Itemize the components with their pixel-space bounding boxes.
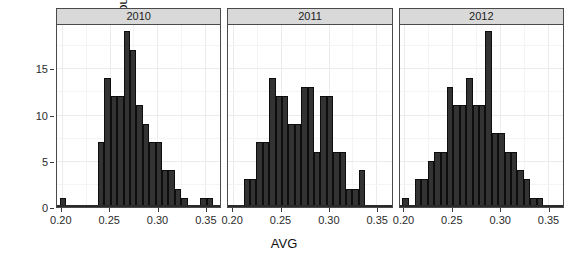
x-tick-mark — [549, 208, 550, 212]
bar-series — [57, 25, 220, 207]
x-tick-label: 0.20 — [50, 214, 71, 226]
facet-panel-2011: 2011 — [227, 8, 392, 208]
x-tick-label: 0.20 — [393, 214, 414, 226]
facet-panel-2012: 2012 — [399, 8, 564, 208]
y-tick-label: 5 — [42, 156, 48, 168]
x-tick-label: 0.30 — [147, 214, 168, 226]
x-tick-label: 0.20 — [221, 214, 242, 226]
x-tick-mark — [452, 208, 453, 212]
y-tick-mark — [50, 116, 54, 117]
panel-strip-2012: 2012 — [399, 8, 564, 25]
panel-strip-label: 2010 — [126, 11, 150, 22]
panel-strip-2011: 2011 — [227, 8, 392, 25]
axis-baseline — [57, 205, 220, 207]
x-tick-label: 0.25 — [98, 214, 119, 226]
y-tick-mark — [50, 162, 54, 163]
x-tick-mark — [109, 208, 110, 212]
x-tick-label: 0.35 — [195, 214, 216, 226]
y-tick-mark — [50, 69, 54, 70]
bar-series — [400, 25, 563, 207]
x-axis-title: AVG — [0, 236, 568, 251]
axis-baseline — [400, 205, 563, 207]
x-tick-mark — [403, 208, 404, 212]
x-tick-mark — [158, 208, 159, 212]
chart-root: count 051015 201020112012 0.200.250.300.… — [0, 0, 568, 257]
x-tick-mark — [281, 208, 282, 212]
x-tick-label: 0.25 — [270, 214, 291, 226]
y-tick-mark — [50, 208, 54, 209]
x-tick-label: 0.35 — [538, 214, 559, 226]
x-axis-panel-2011: 0.200.250.300.35 — [227, 208, 392, 232]
facet-panels: 201020112012 — [56, 8, 564, 208]
y-axis-title-wrapper: count — [0, 0, 16, 18]
plot-area-2010 — [56, 25, 221, 208]
x-tick-label: 0.35 — [366, 214, 387, 226]
y-tick-label: 10 — [36, 110, 48, 122]
panel-strip-2010: 2010 — [56, 8, 221, 25]
x-tick-mark — [500, 208, 501, 212]
x-axis-panel-2012: 0.200.250.300.35 — [399, 208, 564, 232]
axis-baseline — [228, 205, 391, 207]
x-tick-mark — [377, 208, 378, 212]
bar-series — [228, 25, 391, 207]
panel-strip-label: 2012 — [469, 11, 493, 22]
y-tick-label: 15 — [36, 63, 48, 75]
y-tick-label: 0 — [42, 202, 48, 214]
histogram-bar — [359, 170, 365, 207]
x-tick-mark — [232, 208, 233, 212]
x-tick-mark — [206, 208, 207, 212]
plot-area-2011 — [227, 25, 392, 208]
x-tick-label: 0.25 — [441, 214, 462, 226]
facet-panel-2010: 2010 — [56, 8, 221, 208]
x-tick-mark — [61, 208, 62, 212]
x-tick-label: 0.30 — [318, 214, 339, 226]
x-axis-panel-2010: 0.200.250.300.35 — [56, 208, 221, 232]
plot-area-2012 — [399, 25, 564, 208]
panel-strip-label: 2011 — [298, 11, 322, 22]
x-tick-label: 0.30 — [489, 214, 510, 226]
x-axis-tick-labels: 0.200.250.300.350.200.250.300.350.200.25… — [56, 208, 564, 232]
x-tick-mark — [329, 208, 330, 212]
